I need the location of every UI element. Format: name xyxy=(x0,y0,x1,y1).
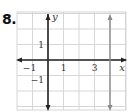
series-arrow-up xyxy=(108,14,113,20)
x-tick-label: −1 xyxy=(23,63,36,73)
y-axis-arrow-up xyxy=(46,14,51,20)
x-tick-label: 1 xyxy=(61,63,67,73)
x-axis-label: x xyxy=(119,62,125,73)
y-tick-label: 1 xyxy=(38,40,44,50)
x-tick-label: 3 xyxy=(92,63,98,73)
y-tick-label: −1 xyxy=(31,75,44,85)
coordinate-plane: −1131−1xy xyxy=(0,0,130,112)
y-axis-label: y xyxy=(51,11,58,22)
